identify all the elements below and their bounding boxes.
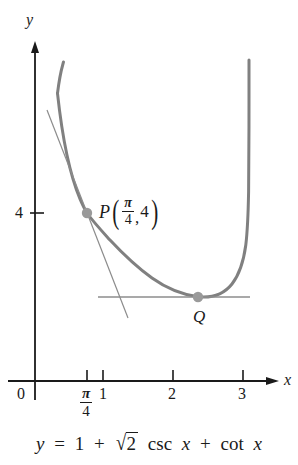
square-root-of-2: √2 [114,432,138,454]
caption-csc: csc [148,434,172,453]
fraction-denominator: 4 [122,212,134,227]
caption-cot: cot [220,434,243,453]
point-p-y-value: 4 [140,203,149,220]
point-label-q: Q [193,308,205,325]
caption-lhs: y [36,434,44,453]
fraction-pi-over-4: π 4 [80,386,92,420]
caption-plus-1: + [94,434,105,453]
y-axis-arrowhead [31,41,39,53]
radical-sign: √ [116,432,126,454]
caption-equals: = [54,434,65,453]
x-tick-label-pi-over-4: π 4 [80,386,92,420]
point-label-p-name: P [99,203,110,221]
fraction-denominator: 4 [80,403,92,419]
figure-caption: y = 1 + √2 csc x + cot x [0,432,298,454]
x-axis-arrowhead [266,377,279,385]
caption-var-2: x [253,434,261,453]
caption-plus-2: + [200,434,211,453]
x-tick-label-3: 3 [238,386,246,402]
point-marker-p [82,208,92,218]
caption-one: 1 [75,434,85,453]
fraction-numerator: π [80,386,92,403]
point-marker-q [193,292,203,302]
x-axis-label: x [284,372,291,388]
function-curve-main [58,60,250,297]
point-label-p: P ( π 4 , 4 ) [99,196,160,228]
origin-label: 0 [17,386,25,402]
fraction-pi-over-4-in-point: π 4 [122,196,134,228]
radical-argument: 2 [126,432,139,453]
y-tick-label-4: 4 [15,205,23,221]
y-axis-label: y [26,12,33,28]
x-tick-label-2: 2 [168,386,176,402]
function-curve [58,62,64,93]
right-paren: ) [151,198,158,226]
left-paren: ( [112,198,119,226]
graph-canvas [0,0,298,465]
fraction-numerator: π [122,196,134,212]
caption-var-1: x [182,434,190,453]
coordinate-separator: , [135,209,139,228]
math-figure: y x 0 4 π 4 1 2 3 P ( π 4 , 4 ) Q y = 1 … [0,0,298,465]
x-tick-label-1: 1 [99,386,107,402]
